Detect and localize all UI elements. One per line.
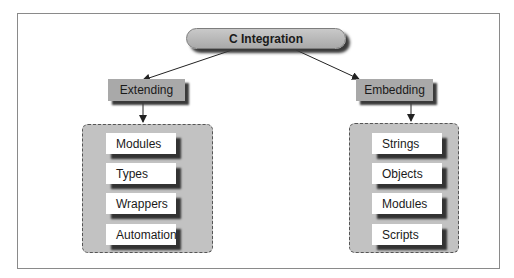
item-objects: Objects (372, 163, 442, 184)
extending-group: Modules Types Wrappers Automation (82, 124, 213, 253)
arrow-root-to-extending (143, 50, 232, 80)
item-wrappers: Wrappers (106, 193, 176, 214)
root-node-c-integration: C Integration (186, 28, 346, 49)
arrow-root-to-embedding (296, 50, 359, 79)
embedding-group: Strings Objects Modules Scripts (349, 123, 459, 253)
item-modules-embedding: Modules (372, 193, 442, 214)
node-embedding: Embedding (356, 79, 433, 101)
node-extending: Extending (108, 79, 185, 101)
item-automation: Automation (106, 224, 176, 245)
item-modules: Modules (106, 133, 176, 154)
item-types: Types (106, 163, 176, 184)
item-scripts: Scripts (372, 224, 442, 245)
item-strings: Strings (372, 133, 442, 154)
